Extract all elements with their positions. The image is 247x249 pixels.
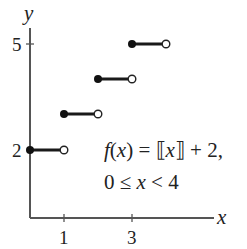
step-function-chart: y x 1 3 2 5 f(x) = ⟦x⟧ + 2, 0 ≤ x < 4 <box>0 0 247 249</box>
step-segment-y5 <box>128 40 170 48</box>
y-axis-label: y <box>22 1 34 25</box>
x-tick-label-1: 1 <box>59 227 69 248</box>
closed-dot <box>60 110 68 118</box>
y-tick-label-5: 5 <box>12 34 22 55</box>
function-equation: f(x) = ⟦x⟧ + 2, <box>104 138 223 162</box>
domain-annotation: 0 ≤ x < 4 <box>104 170 179 194</box>
closed-dot <box>128 40 136 48</box>
y-tick-label-2: 2 <box>12 140 22 161</box>
closed-dot <box>26 146 34 154</box>
step-segment-y2 <box>26 146 68 154</box>
step-segment-y3 <box>60 110 102 118</box>
x-tick-label-3: 3 <box>127 227 137 248</box>
open-dot <box>162 40 170 48</box>
open-dot <box>94 110 102 118</box>
step-segment-y4 <box>94 75 136 83</box>
open-dot <box>60 146 68 154</box>
open-dot <box>128 75 136 83</box>
closed-dot <box>94 75 102 83</box>
x-axis-label: x <box>216 205 227 229</box>
